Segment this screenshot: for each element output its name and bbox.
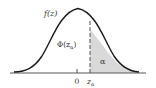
normal-distribution-diagram: f(z) Φ(zα) α 0 zα (0, 0, 156, 88)
bell-curve (14, 9, 139, 73)
cdf-label-close: ) (73, 40, 76, 49)
z-alpha-sub: α (91, 81, 95, 87)
z-alpha-tick-label: zα (86, 77, 95, 87)
cdf-label-main: Φ(z (57, 40, 70, 49)
curve-label: f(z) (43, 9, 57, 18)
tail-area-shade (90, 30, 139, 74)
tail-label: α (100, 57, 106, 66)
cdf-label: Φ(zα) (57, 40, 76, 50)
zero-tick-label: 0 (75, 77, 80, 86)
